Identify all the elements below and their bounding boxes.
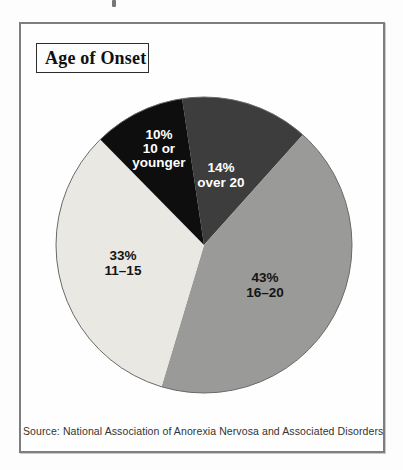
- slice-category-11-15: 11–15: [78, 263, 168, 278]
- pie-chart: [0, 0, 403, 470]
- slice-pct-16-20: 43%: [220, 270, 310, 285]
- slice-category-10-or-younger: 10 or younger: [126, 142, 192, 170]
- slice-pct-11-15: 33%: [78, 248, 168, 263]
- source-caption: Source: National Association of Anorexia…: [23, 425, 381, 437]
- slice-label-10-or-younger: 10% 10 or younger: [126, 128, 192, 170]
- slice-category-16-20: 16–20: [220, 285, 310, 300]
- slice-pct-10-or-younger: 10%: [126, 128, 192, 142]
- slice-label-16-20: 43% 16–20: [220, 270, 310, 300]
- slice-label-11-15: 33% 11–15: [78, 248, 168, 278]
- scanned-chart-page: Age of Onset 14% over 20 43% 16–20 33% 1…: [0, 0, 403, 470]
- slice-category-over-20: over 20: [176, 175, 266, 190]
